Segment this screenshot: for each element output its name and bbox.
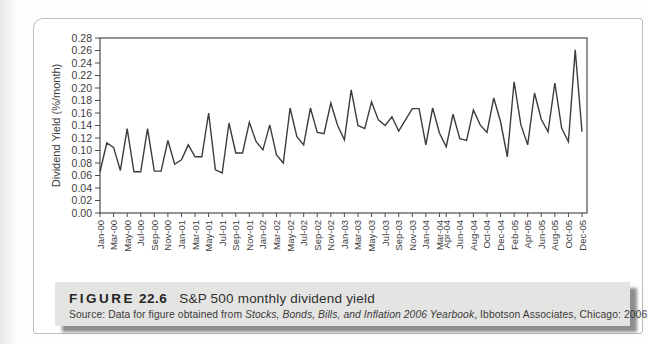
figure-title: S&P 500 monthly dividend yield [179, 291, 375, 306]
y-axis-title: Dividend Yield (%/month) [50, 64, 62, 188]
x-tick-label: Sep-03 [393, 220, 404, 251]
x-tick-label: Aug-04 [468, 220, 479, 251]
x-tick-label: Jan-03 [339, 220, 350, 249]
x-tick-label: Feb-05 [509, 220, 520, 250]
x-tick-label: Mar-00 [108, 220, 119, 250]
y-tick-label: 0.10 [72, 144, 93, 156]
x-tick-label: Jul-02 [298, 220, 309, 246]
x-tick-label: Jan-00 [95, 220, 106, 249]
y-tick-label: 0.20 [72, 82, 93, 94]
x-tick-label: Nov-00 [162, 220, 173, 251]
x-tick-label: Jun-04 [454, 220, 465, 249]
x-tick-label: Jul-03 [380, 220, 391, 246]
y-tick-label: 0.16 [72, 107, 93, 119]
y-tick-label: 0.12 [72, 132, 93, 144]
y-tick-label: 0.28 [72, 32, 93, 44]
x-tick-label: Oct-04 [481, 220, 492, 249]
x-tick-label: Dec-04 [495, 220, 506, 251]
x-tick-label: Mar-01 [190, 220, 201, 250]
plot-border [100, 38, 587, 213]
x-tick-label: Nov-02 [325, 220, 336, 251]
y-tick-label: 0.22 [72, 69, 93, 81]
x-tick-label: Sep-00 [149, 220, 160, 251]
figure-source: Source: Data for figure obtained from St… [69, 309, 647, 320]
y-tick-label: 0.18 [72, 94, 93, 106]
dividend-yield-chart: 0.000.020.040.060.080.100.120.140.160.18… [0, 0, 648, 282]
figure-number: 22.6 [139, 291, 167, 306]
y-tick-label: 0.08 [72, 157, 93, 169]
chart-area: 0.000.020.040.060.080.100.120.140.160.18… [0, 0, 648, 282]
y-axis: 0.000.020.040.060.080.100.120.140.160.18… [72, 32, 100, 219]
y-tick-label: 0.14 [72, 119, 93, 131]
y-tick-label: 0.04 [72, 182, 93, 194]
x-tick-label: Apr-04 [441, 220, 452, 249]
x-axis: Jan-00Mar-00May-00Jul-00Sep-00Nov-00Jan-… [95, 213, 588, 252]
x-tick-label: Jul-00 [135, 220, 146, 246]
y-tick-label: 0.06 [72, 169, 93, 181]
x-tick-label: May-00 [122, 220, 133, 252]
x-tick-label: Jan-04 [420, 220, 431, 249]
y-tick-label: 0.24 [72, 57, 93, 69]
source-suffix: , Ibbotson Associates, Chicago: 2006 [474, 309, 647, 320]
x-tick-label: Jan-02 [257, 220, 268, 249]
y-tick-label: 0.00 [72, 207, 93, 219]
x-tick-label: Apr-05 [522, 220, 533, 249]
page: 0.000.020.040.060.080.100.120.140.160.18… [0, 0, 648, 344]
x-tick-label: Mar-02 [271, 220, 282, 250]
figure-label: FIGURE [69, 291, 135, 306]
source-book-title: Stocks, Bonds, Bills, and Inflation 2006… [245, 309, 474, 320]
x-tick-label: Aug-05 [549, 220, 560, 251]
figure-caption: FIGURE22.6S&P 500 monthly dividend yield [69, 289, 375, 307]
dividend-yield-line [100, 50, 582, 173]
x-tick-label: Dec-05 [577, 220, 588, 251]
x-tick-label: May-02 [285, 220, 296, 252]
x-tick-label: Jul-01 [217, 220, 228, 246]
figure-caption-band: FIGURE22.6S&P 500 monthly dividend yield… [55, 282, 630, 326]
x-tick-label: May-01 [203, 220, 214, 252]
x-tick-label: Nov-03 [407, 220, 418, 251]
y-tick-label: 0.26 [72, 44, 93, 56]
x-tick-label: Oct-05 [563, 220, 574, 249]
x-tick-label: Sep-01 [230, 220, 241, 251]
x-tick-label: Nov-01 [244, 220, 255, 251]
source-prefix: Source: Data for figure obtained from [69, 309, 245, 320]
x-tick-label: Mar-03 [352, 220, 363, 250]
x-tick-label: May-03 [366, 220, 377, 252]
x-tick-label: Jun-05 [536, 220, 547, 249]
x-tick-label: Sep-02 [312, 220, 323, 251]
x-tick-label: Jan-01 [176, 220, 187, 249]
y-tick-label: 0.02 [72, 194, 93, 206]
